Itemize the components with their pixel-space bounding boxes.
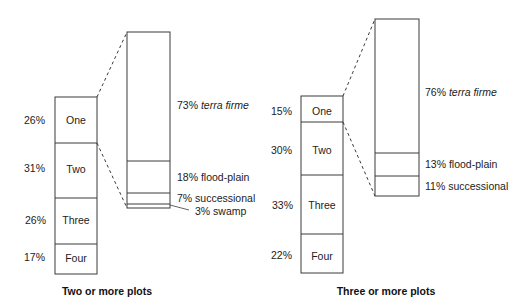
segment-percent-one: 15% [271,105,292,117]
panel-caption: Two or more plots [62,285,152,297]
forest-type-bar-frame [127,32,170,208]
segment-percent-three: 26% [25,214,46,226]
segment-percent-four: 17% [24,251,45,263]
segment-label-one: One [66,114,86,126]
forest-label-terra-firme: 73% terra firme [177,99,249,111]
forest-label-successional: 7% successional [177,192,255,204]
segment-percent-three: 33% [272,199,293,211]
segment-label-two: Two [312,144,331,156]
segment-label-four: Four [65,252,87,264]
segment-label-four: Four [311,250,333,262]
forest-type-bar-frame [375,19,419,196]
segment-percent-four: 22% [271,249,292,261]
segment-label-three: Three [62,214,90,226]
swamp-leader-line [170,205,189,210]
forest-label-swamp: 3% swamp [195,205,247,217]
segment-percent-two: 30% [271,144,292,156]
forest-type-bar: 73% terra firme 18% flood-plain 7% succe… [127,32,255,217]
forest-label-flood-plain: 18% flood-plain [177,171,250,183]
segment-label-two: Two [66,163,85,175]
panel-two-or-more-plots: One Two Three Four 26% 31% 26% 17% 73% t… [24,32,255,297]
zoom-connector-bottom [343,122,375,196]
forest-label-successional: 11% successional [425,180,508,192]
plot-count-bar: One Two Three Four 15% 30% 33% 22% [271,96,343,273]
segment-percent-one: 26% [24,114,45,126]
forest-type-bar: 76% terra firme 13% flood-plain 11% succ… [375,19,508,196]
plot-count-bar-frame [301,96,343,273]
segment-label-three: Three [308,199,336,211]
segment-percent-two: 31% [24,162,45,174]
diagram-canvas: One Two Three Four 26% 31% 26% 17% 73% t… [0,0,524,300]
forest-label-terra-firme: 76% terra firme [425,86,497,98]
panel-three-or-more-plots: One Two Three Four 15% 30% 33% 22% 76% t… [271,19,508,297]
zoom-connector-top [97,32,127,97]
zoom-connector-top [343,19,375,96]
segment-label-one: One [312,105,332,117]
plot-count-bar: One Two Three Four 26% 31% 26% 17% [24,97,97,274]
forest-label-flood-plain: 13% flood-plain [425,158,498,170]
panel-caption: Three or more plots [337,285,436,297]
zoom-connector-bottom [97,143,127,208]
